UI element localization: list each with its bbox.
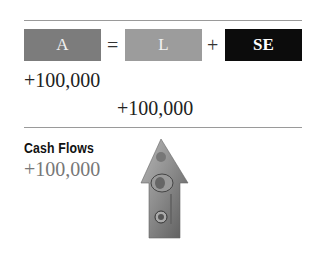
cash-flows-title: Cash Flows [24,139,94,156]
assets-box: A [24,29,101,61]
cash-flows-value: +100,000 [24,158,100,181]
equity-change: +100,000 [117,97,193,120]
plus-sign: + [207,34,218,57]
assets-change: +100,000 [24,69,100,92]
equity-box: SE [225,29,302,61]
assets-label: A [56,35,68,55]
bottom-rule [24,127,302,128]
top-rule [24,20,302,21]
liabilities-label: L [158,35,168,55]
liabilities-box: L [125,29,202,61]
money-up-arrow-icon [140,139,190,239]
equals-sign: = [107,34,118,57]
equity-label: SE [253,35,274,55]
